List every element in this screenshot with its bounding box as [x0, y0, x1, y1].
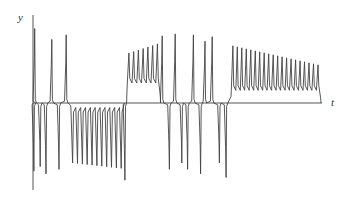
y-axis-label: y [18, 11, 23, 23]
x-axis-label: t [331, 96, 334, 108]
chart-canvas [0, 0, 349, 203]
signal-line [32, 29, 321, 181]
